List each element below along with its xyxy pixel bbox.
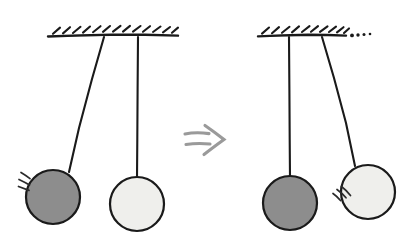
pendulum-string [289,37,290,178]
pendulum-bob-light [110,177,164,231]
ceiling-trailing-dots-icon [350,33,371,38]
before-collision-panel [19,26,179,231]
pendulum-bob-dark [263,176,317,230]
ceiling-line-icon [258,35,346,37]
arrow-head-icon [204,126,224,155]
ceiling-hatch-marks-icon [262,26,349,33]
pendulum-dark-swung-left [19,37,105,224]
pendulum-dark-at-rest [263,37,317,230]
pendulum-figure: Coupled pendulum momentum transfer Two h… [0,0,412,239]
pendulum-string [322,37,355,166]
arrow-upper-line-icon [185,133,209,134]
ceiling-hatch-marks-icon [53,26,178,34]
ceiling-line-icon [48,35,178,37]
transition-arrow [185,126,224,155]
arrow-lower-line-icon [186,143,210,144]
pendulum-light-swung-right [322,37,395,219]
ceiling-support-right [258,26,371,37]
pendulum-string [69,37,104,172]
pendulum-bob-light [341,165,395,219]
after-collision-panel [258,26,395,230]
pendulum-string [137,37,138,179]
pendulum-light-at-rest [110,37,164,231]
pendulum-bob-dark [26,170,80,224]
ceiling-support-left [48,26,178,37]
figure-canvas [0,0,412,239]
